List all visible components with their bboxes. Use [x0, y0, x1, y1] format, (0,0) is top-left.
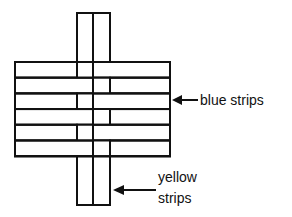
yellow-strips-label-line2: strips [158, 190, 191, 206]
blue-strips-arrowhead [172, 95, 182, 105]
yellow-strips-label-line1: yellow [158, 169, 198, 185]
blue-strips-callout: blue strips [172, 92, 264, 108]
vertical-strip-over-segment [93, 78, 110, 94]
vertical-strip-over-segment [77, 93, 93, 109]
weaving-diagram: blue strips yellow strips [0, 0, 292, 217]
vertical-strip-over-segment [77, 125, 93, 141]
blue-strips-label: blue strips [200, 92, 264, 108]
yellow-strips-callout: yellow strips [113, 169, 198, 206]
vertical-strip-over-segment [93, 141, 110, 157]
yellow-strips-arrowhead [113, 185, 124, 195]
weave-group [15, 13, 170, 205]
vertical-strip-over-segment [93, 109, 110, 125]
vertical-strip-over-segment [77, 62, 93, 78]
